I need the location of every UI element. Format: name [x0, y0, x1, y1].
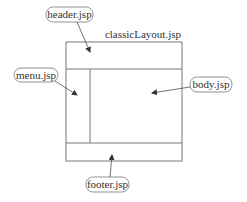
header-callout: header.jsp: [46, 7, 93, 52]
header-label: header.jsp: [47, 8, 92, 20]
layout-title: classicLayout.jsp: [105, 28, 182, 40]
footer-arrow: [110, 155, 112, 177]
layout-frame: [66, 42, 182, 161]
menu-callout: menu.jsp: [14, 68, 77, 95]
footer-label: footer.jsp: [87, 178, 129, 190]
menu-label: menu.jsp: [16, 69, 57, 81]
body-label: body.jsp: [193, 78, 230, 90]
header-arrow: [77, 22, 90, 52]
body-callout: body.jsp: [152, 77, 232, 93]
layout-diagram: classicLayout.jsp header.jsp menu.jsp bo…: [0, 0, 247, 202]
body-arrow: [152, 87, 190, 93]
footer-callout: footer.jsp: [86, 155, 129, 192]
